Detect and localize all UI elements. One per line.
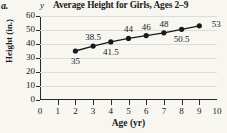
y-tick-label: 40: [26, 38, 35, 48]
x-tick-mark: [111, 100, 112, 105]
data-point-label: 44: [124, 24, 133, 34]
plot-area: 0102030405060 3538.541.544464850.553: [40, 16, 217, 100]
y-tick-label: 60: [26, 10, 35, 20]
x-tick-mark: [58, 100, 59, 105]
data-point-label: 48: [159, 19, 168, 29]
x-axis-title: Age (yr): [40, 118, 217, 128]
y-tick-label: 50: [26, 24, 35, 34]
x-tick-mark: [182, 100, 183, 105]
y-axis-title: Height (in.): [4, 15, 14, 67]
data-point-label: 35: [71, 56, 80, 66]
y-tick-label: 30: [26, 52, 35, 62]
chart-figure: a. y Average Height for Girls, Ages 2–9 …: [0, 0, 227, 133]
x-tick-mark: [93, 100, 94, 105]
x-tick-mark: [146, 100, 147, 105]
data-point-marker: [161, 30, 166, 35]
data-point-marker: [179, 27, 184, 32]
data-point-label: 41.5: [103, 47, 119, 57]
y-axis-variable-label: y: [40, 0, 44, 10]
data-point-marker: [197, 23, 202, 28]
data-point-marker: [108, 39, 113, 44]
x-tick-mark: [199, 100, 200, 105]
y-tick-label: 10: [26, 80, 35, 90]
x-tick-mark: [75, 100, 76, 105]
part-label: a.: [1, 0, 8, 11]
x-axis-ticks: 012345678910: [40, 100, 217, 118]
data-point-marker: [73, 48, 78, 53]
data-point-label: 38.5: [85, 32, 101, 42]
x-tick-mark: [129, 100, 130, 105]
data-point-label: 53: [212, 19, 221, 29]
data-point-marker: [91, 44, 96, 49]
data-point-marker: [144, 33, 149, 38]
data-point-label: 46: [142, 22, 151, 32]
y-tick-label: 0: [31, 94, 36, 104]
data-point-label: 50.5: [174, 34, 190, 44]
chart-title: Average Height for Girls, Ages 2–9: [53, 0, 188, 10]
data-point-marker: [126, 36, 131, 41]
x-tick-mark: [164, 100, 165, 105]
y-tick-label: 20: [26, 66, 35, 76]
x-tick-label: 10: [207, 106, 227, 116]
